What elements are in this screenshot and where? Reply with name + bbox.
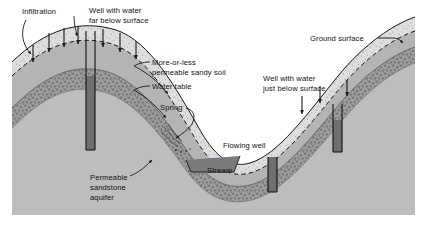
label-flowing-well: Flowing well (223, 141, 266, 150)
label-water-table: Water table (152, 82, 192, 91)
label-well-water-just-below-surface: Well with water just below surface (262, 74, 326, 93)
well-flowing-artesian[interactable] (268, 157, 277, 192)
groundwater-cross-section: Infiltration Well with water far below s… (0, 0, 429, 240)
label-stream: Stream (207, 166, 232, 175)
diagram-root: Infiltration Well with water far below s… (0, 0, 429, 240)
label-spring: Spring (160, 103, 183, 112)
label-well-water-far-below-surface: Well with water far below surface (89, 6, 149, 25)
label-infiltration: Infiltration (22, 7, 56, 16)
label-ground-surface: Ground surface (310, 34, 364, 43)
